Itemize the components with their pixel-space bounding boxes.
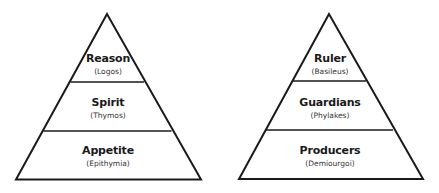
tier-title: Producers	[300, 145, 361, 156]
tier-subtitle: (Basileus)	[312, 68, 349, 76]
left-tier-bottom: Appetite (Epithymia)	[82, 145, 134, 168]
tier-subtitle: (Epithymia)	[82, 160, 134, 168]
right-tier-bottom: Producers (Demiourgoi)	[300, 145, 361, 168]
right-tier-top: Ruler (Basileus)	[312, 53, 349, 76]
tier-subtitle: (Thymos)	[90, 112, 125, 120]
tier-title: Appetite	[82, 145, 134, 156]
tier-title: Reason	[86, 53, 130, 64]
tier-title: Guardians	[299, 97, 360, 108]
tier-title: Spirit	[90, 97, 125, 108]
left-tier-middle: Spirit (Thymos)	[90, 97, 125, 120]
right-tier-middle: Guardians (Phylakes)	[299, 97, 360, 120]
tier-title: Ruler	[312, 53, 349, 64]
tier-subtitle: (Phylakes)	[299, 112, 360, 120]
diagram-canvas	[0, 0, 439, 193]
left-tier-top: Reason (Logos)	[86, 53, 130, 76]
tier-subtitle: (Demiourgoi)	[300, 160, 361, 168]
tier-subtitle: (Logos)	[86, 68, 130, 76]
